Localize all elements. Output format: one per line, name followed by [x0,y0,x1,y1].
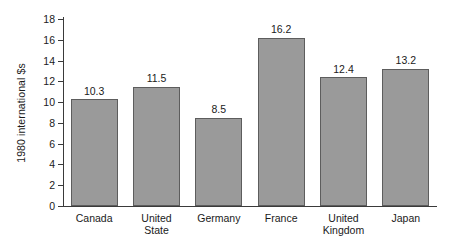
tick-mark [58,185,63,186]
y-tick-label: 14 [43,55,55,66]
x-axis-category-label: Canada [63,212,125,224]
bar: 16.2 [258,38,305,206]
bar-chart: 1980 international $s 024681012141618 10… [0,0,454,251]
bar: 10.3 [71,99,118,206]
bar: 13.2 [382,69,429,206]
y-tick-label: 8 [49,118,55,129]
y-tick-label: 16 [43,35,55,46]
tick-mark [58,144,63,145]
tick-mark [58,206,63,207]
x-axis-category-label: United Kingdom [312,212,374,236]
plot-area: 024681012141618 10.311.58.516.212.413.2 [63,19,437,206]
tick-mark [58,40,63,41]
tick-mark [58,19,63,20]
tick-mark [58,164,63,165]
bar-value-label: 11.5 [147,73,167,84]
y-tick-label: 0 [49,201,55,212]
tick-mark [58,102,63,103]
y-axis-title: 1980 international $s [15,18,27,208]
tick-mark [58,81,63,82]
bar: 11.5 [133,87,180,206]
y-tick-label: 4 [49,159,55,170]
x-axis-category-label: France [250,212,312,224]
x-axis-category-label: Germany [188,212,250,224]
x-axis-category-label: United State [125,212,187,236]
bar: 12.4 [320,77,367,206]
bar-value-label: 16.2 [271,24,291,35]
bar-value-label: 8.5 [212,104,227,115]
y-tick-label: 10 [43,97,55,108]
y-tick-label: 12 [43,76,55,87]
y-tick-label: 6 [49,138,55,149]
x-axis-line [63,206,437,207]
tick-mark [58,123,63,124]
y-tick-label: 2 [49,180,55,191]
bar-value-label: 12.4 [333,64,353,75]
tick-mark [58,61,63,62]
bar: 8.5 [195,118,242,206]
y-tick-label: 18 [43,14,55,25]
bar-value-label: 10.3 [84,86,104,97]
x-axis-category-label: Japan [375,212,437,224]
bar-value-label: 13.2 [396,55,416,66]
